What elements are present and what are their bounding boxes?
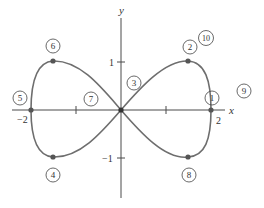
y-tick-label-neg1: −1 <box>102 153 113 164</box>
point-origin <box>118 107 123 112</box>
circled-label-6: 6 <box>46 39 60 53</box>
svg-text:5: 5 <box>18 93 23 103</box>
point-left-intercept <box>28 107 33 112</box>
point-lower-right <box>185 154 190 159</box>
x-tick-label-neg2: −2 <box>17 114 28 125</box>
circled-label-9: 9 <box>237 84 251 98</box>
point-upper-right <box>185 58 190 63</box>
x-tick-label-2: 2 <box>216 115 221 126</box>
svg-text:1: 1 <box>210 93 215 103</box>
svg-text:8: 8 <box>187 170 192 180</box>
circled-label-7: 7 <box>84 92 98 106</box>
circled-label-10: 10 <box>199 31 214 46</box>
point-upper-left <box>50 58 55 63</box>
y-axis-label: y <box>118 4 124 16</box>
figure-eight-diagram: x y −2 2 1 −1 1 2 3 4 5 6 <box>0 0 264 208</box>
circled-label-2: 2 <box>183 40 197 54</box>
svg-text:4: 4 <box>51 170 56 180</box>
svg-text:3: 3 <box>132 78 137 88</box>
svg-text:10: 10 <box>202 34 210 43</box>
circled-label-1: 1 <box>205 91 219 105</box>
svg-text:6: 6 <box>51 41 56 51</box>
svg-text:7: 7 <box>89 94 94 104</box>
circled-label-8: 8 <box>182 168 196 182</box>
point-right-intercept <box>208 107 213 112</box>
y-tick-label-1: 1 <box>109 57 114 68</box>
circled-label-4: 4 <box>46 168 60 182</box>
circled-label-5: 5 <box>13 91 27 105</box>
svg-text:2: 2 <box>188 42 193 52</box>
point-lower-left <box>50 154 55 159</box>
x-axis-label: x <box>228 104 234 116</box>
svg-text:9: 9 <box>242 86 247 96</box>
circled-label-3: 3 <box>127 76 141 90</box>
